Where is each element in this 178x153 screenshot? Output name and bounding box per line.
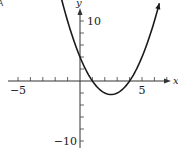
y-tick-label: −10 bbox=[54, 135, 77, 148]
x-axis bbox=[8, 79, 171, 84]
corner-label: A bbox=[0, 0, 4, 8]
x-axis-arrow-icon bbox=[164, 79, 171, 84]
y-axis-label: y bbox=[75, 0, 82, 8]
y-axis bbox=[78, 8, 83, 148]
x-tick-label: −5 bbox=[10, 84, 26, 97]
parabola-chart: A x y 5−510−10 bbox=[0, 0, 178, 153]
x-tick-label: 5 bbox=[139, 84, 146, 97]
curve-arrowheads bbox=[59, 0, 160, 10]
x-axis-label: x bbox=[173, 75, 178, 86]
y-axis-arrow-icon bbox=[78, 8, 83, 15]
y-tick-label: 10 bbox=[87, 15, 101, 28]
parabola-curve bbox=[60, 0, 159, 95]
